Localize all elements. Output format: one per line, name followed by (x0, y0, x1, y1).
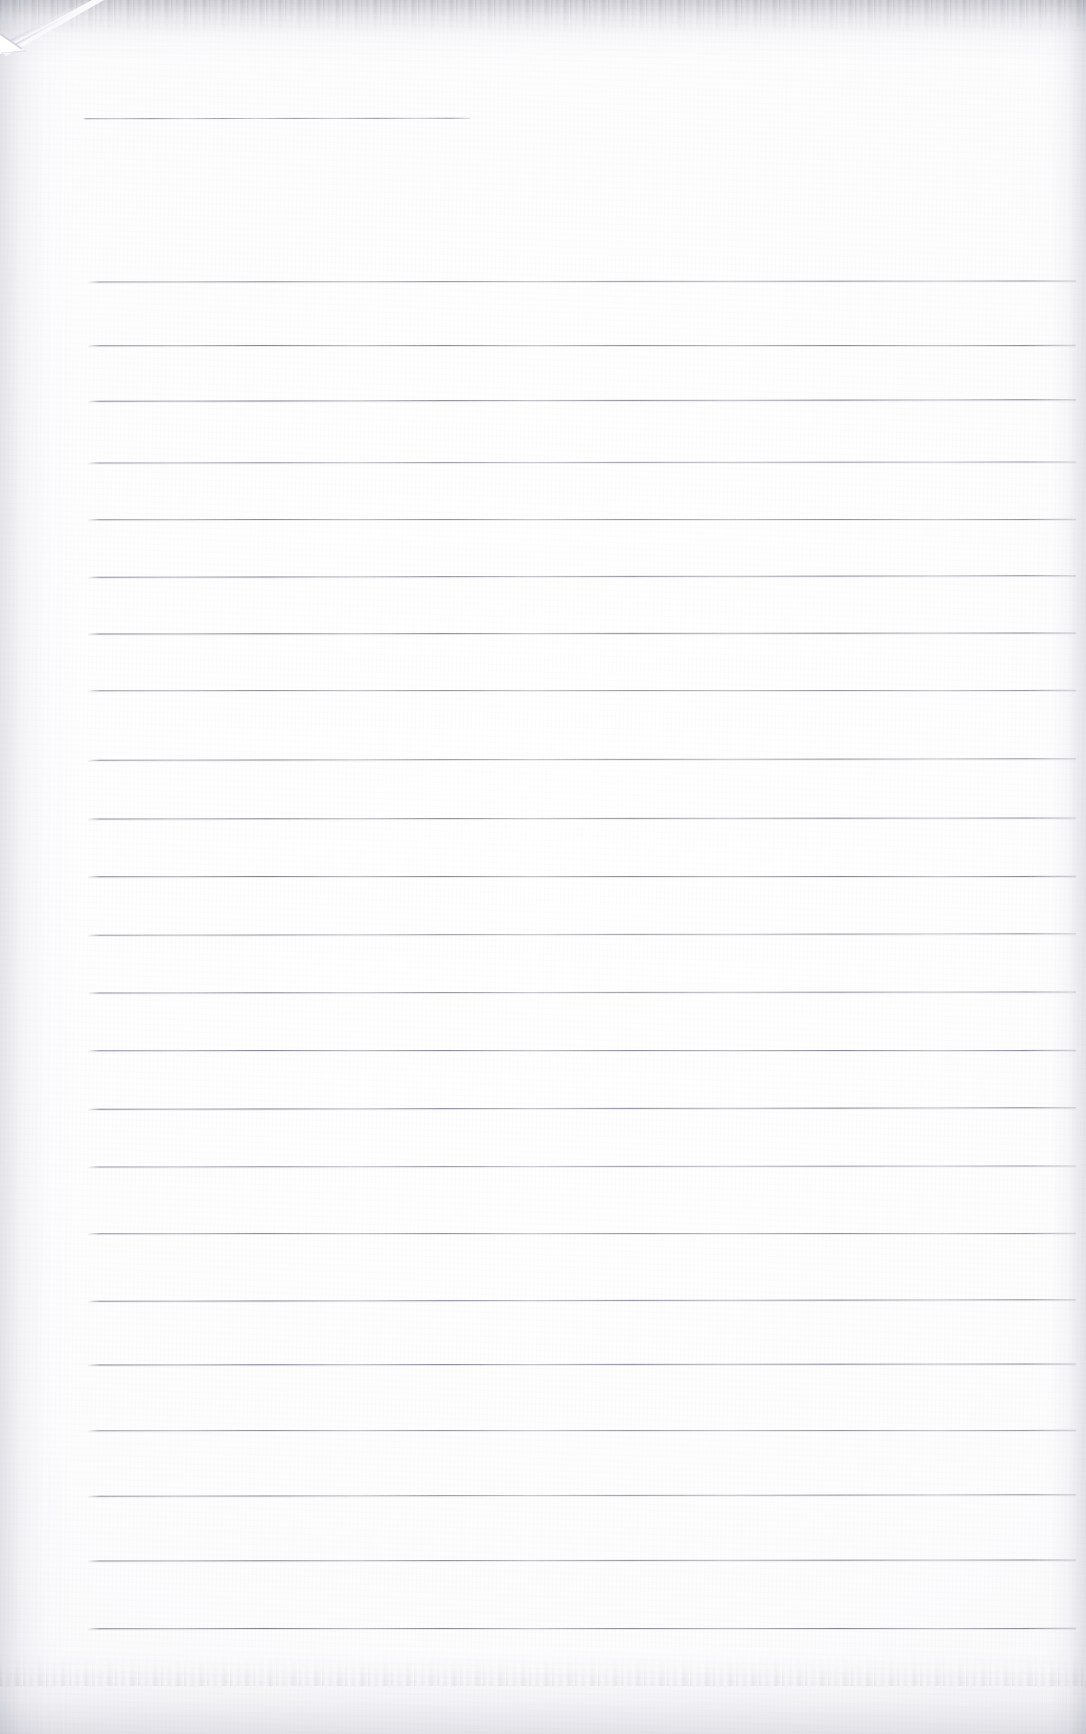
scanned-page (0, 0, 1086, 1734)
paper-background (0, 0, 1086, 1734)
